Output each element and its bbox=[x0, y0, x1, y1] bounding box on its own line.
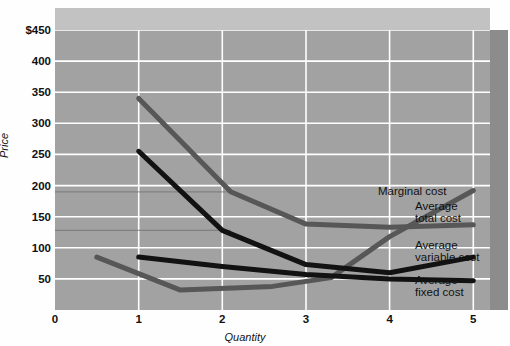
x-axis-tick-label: 3 bbox=[303, 313, 309, 325]
y-axis-tick-label: 50 bbox=[38, 273, 51, 285]
y-axis-tick-label: 300 bbox=[32, 117, 51, 129]
x-axis-tick-label: 5 bbox=[470, 313, 476, 325]
y-axis-tick-label: 400 bbox=[32, 55, 51, 67]
series-label-average-fixed-cost: Average fixed cost bbox=[415, 275, 464, 298]
series-label-marginal-cost: Marginal cost bbox=[378, 186, 446, 198]
y-axis-title: Price bbox=[0, 133, 10, 158]
x-axis-tick-label: 0 bbox=[52, 313, 58, 325]
y-axis-tick-label: 250 bbox=[32, 148, 51, 160]
x-axis-tick-label: 2 bbox=[219, 313, 225, 325]
y-axis-tick-label: 150 bbox=[32, 211, 51, 223]
series-label-average-variable-cost: Average variable cost bbox=[415, 240, 480, 263]
chart-top-bevel bbox=[55, 8, 490, 30]
y-axis-tick-label: 200 bbox=[32, 180, 51, 192]
plot-svg bbox=[55, 30, 490, 310]
y-axis-tick-labels: $45040035030025020015010050 bbox=[0, 30, 51, 310]
x-axis-tick-label: 1 bbox=[135, 313, 141, 325]
x-axis-tick-label: 4 bbox=[386, 313, 392, 325]
x-axis-title: Quantity bbox=[0, 331, 490, 343]
chart-right-bevel bbox=[490, 30, 508, 310]
x-axis-tick-labels: 012345 bbox=[0, 313, 510, 331]
chart-figure: $45040035030025020015010050 012345 Price… bbox=[0, 0, 510, 346]
y-axis-tick-label: 100 bbox=[32, 242, 51, 254]
y-axis-tick-label: $450 bbox=[25, 24, 51, 36]
plot-area bbox=[55, 30, 490, 310]
y-axis-tick-label: 350 bbox=[32, 86, 51, 98]
series-label-average-total-cost: Average total cost bbox=[415, 201, 461, 224]
